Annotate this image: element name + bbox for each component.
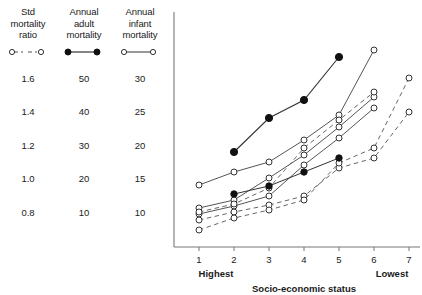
legend-column-annual-infant-mortality: Annual infant mortality 30 25 20 15 10 [114, 6, 166, 229]
x-axis-title: Socio-economic status [252, 283, 356, 294]
scale-value: 10 [135, 196, 146, 230]
legend-marker-filled-circle-solid [59, 44, 109, 60]
x-tick-label: 4 [301, 254, 306, 265]
series-annual-adult-mortality [230, 53, 342, 155]
scale-value: 1.4 [21, 95, 34, 129]
x-axis-ticks [199, 247, 409, 251]
scale-value: 30 [79, 129, 90, 163]
x-tick-label: 7 [406, 254, 411, 265]
scale-values-std-mortality-ratio: 1.6 1.4 1.2 1.0 0.8 [2, 62, 54, 230]
legend-column-std-mortality-ratio: Std mortality ratio 1.6 1.4 1.2 1.0 0.8 [2, 6, 54, 229]
scale-value: 10 [79, 196, 90, 230]
series-annual-adult-mortality-d [231, 155, 342, 197]
scale-value: 40 [79, 95, 90, 129]
legend-column-annual-adult-mortality: Annual adult mortality 50 40 30 20 10 [58, 6, 110, 229]
legend-marker-open-circle-solid [115, 44, 165, 60]
x-tick-label: 5 [336, 254, 341, 265]
x-tick-label: 2 [231, 254, 236, 265]
legend-title-std-mortality-ratio: Std mortality ratio [11, 6, 46, 41]
scale-value: 25 [135, 95, 146, 129]
scale-value: 50 [79, 62, 90, 96]
scale-values-annual-adult-mortality: 50 40 30 20 10 [58, 62, 110, 230]
x-tick-label: 6 [371, 254, 376, 265]
scale-values-annual-infant-mortality: 30 25 20 15 10 [114, 62, 166, 230]
chart-svg: 1 2 3 4 5 6 7 Highest Lowest Socio-econo… [168, 0, 422, 295]
chart-plot-area: 1 2 3 4 5 6 7 Highest Lowest Socio-econo… [168, 0, 422, 295]
legend-title-annual-infant-mortality: Annual infant mortality [123, 6, 158, 41]
scale-value: 1.6 [21, 62, 34, 96]
x-axis-anchor-highest: Highest [199, 268, 235, 279]
scale-value: 0.8 [21, 196, 34, 230]
legend-marker-open-circle-dashed [3, 44, 53, 60]
legend-and-scales: Std mortality ratio 1.6 1.4 1.2 1.0 0.8 … [0, 6, 168, 246]
scale-value: 1.2 [21, 129, 34, 163]
scale-value: 1.0 [21, 162, 34, 196]
x-tick-label: 3 [266, 254, 271, 265]
x-axis-tick-labels: 1 2 3 4 5 6 7 [196, 254, 411, 265]
x-axis-anchor-lowest: Lowest [376, 268, 410, 279]
scale-value: 15 [135, 162, 146, 196]
scale-value: 20 [79, 162, 90, 196]
scale-value: 20 [135, 129, 146, 163]
series-std-mortality-ratio-c [196, 89, 377, 215]
scale-value: 30 [135, 62, 146, 96]
legend-title-annual-adult-mortality: Annual adult mortality [67, 6, 102, 41]
x-tick-label: 1 [196, 254, 201, 265]
